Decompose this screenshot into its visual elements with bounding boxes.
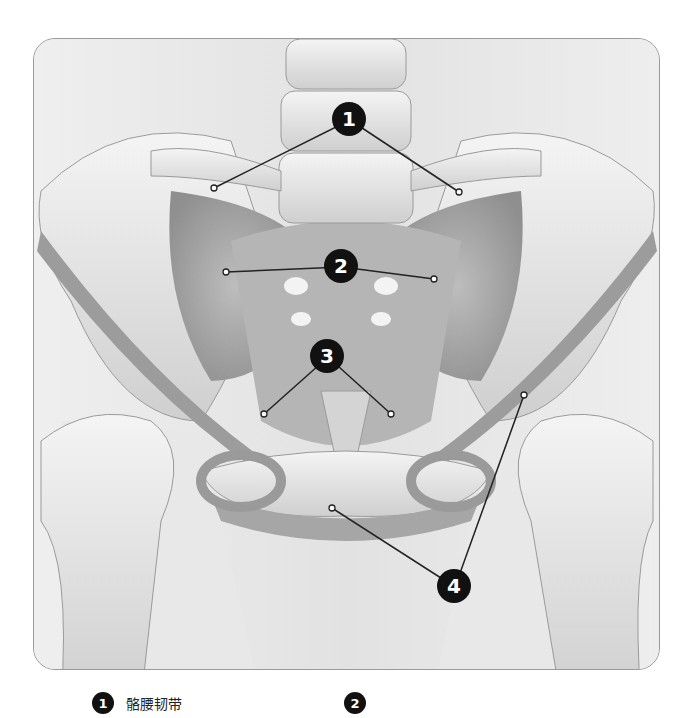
marker-3: 3 xyxy=(310,339,344,373)
marker-4-number: 4 xyxy=(447,574,461,598)
legend-label-1: 骼腰韧带 xyxy=(126,693,182,713)
marker-1: 1 xyxy=(332,102,366,136)
marker-2: 2 xyxy=(324,249,358,283)
marker-1-number: 1 xyxy=(342,107,356,131)
legend-item-2: 2 xyxy=(344,692,378,714)
marker-3-number: 3 xyxy=(320,344,334,368)
legend-marker-2: 2 xyxy=(344,692,366,714)
legend: 1 骼腰韧带 2 xyxy=(0,692,692,718)
legend-item-1: 1 骼腰韧带 xyxy=(92,692,182,714)
marker-4: 4 xyxy=(437,569,471,603)
legend-marker-1: 1 xyxy=(92,692,114,714)
marker-2-number: 2 xyxy=(334,254,348,278)
